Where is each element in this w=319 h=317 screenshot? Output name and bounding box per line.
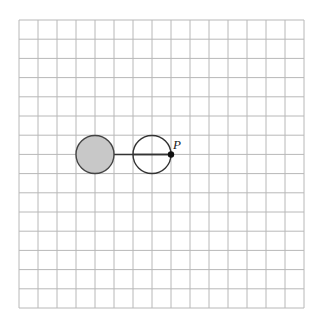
point-p (168, 151, 174, 157)
square-grid (19, 20, 304, 308)
grid-diagram: P (0, 0, 319, 317)
point-p-label: P (172, 137, 181, 152)
shaded-circle (76, 136, 114, 174)
